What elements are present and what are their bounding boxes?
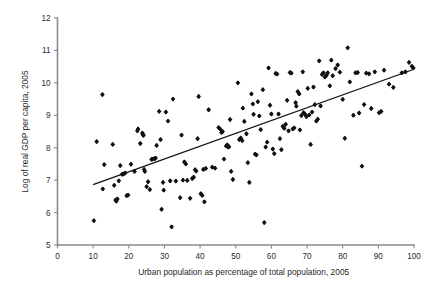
data-point-core — [342, 97, 344, 101]
data-point-core — [252, 102, 254, 106]
data-point-core — [193, 175, 195, 179]
data-point-core — [181, 133, 183, 137]
data-point-core — [208, 108, 210, 112]
y-tick-label: 5 — [46, 241, 51, 250]
data-point-core — [312, 85, 314, 89]
data-point-core — [163, 188, 165, 192]
data-point-core — [352, 113, 354, 117]
data-point-core — [119, 164, 121, 168]
data-point-core — [293, 126, 295, 130]
data-point-core — [260, 128, 262, 132]
data-point-core — [269, 103, 271, 107]
data-point-core — [195, 169, 197, 173]
data-point-core — [286, 98, 288, 102]
scatter-chart: 56789101112 0102030405060708090100 Urban… — [0, 0, 435, 291]
x-tick-label: 90 — [374, 252, 384, 261]
data-point-core — [113, 183, 115, 187]
data-point-core — [388, 82, 390, 86]
data-point-core — [349, 80, 351, 84]
data-point-core — [228, 145, 230, 149]
data-point-core — [139, 142, 141, 146]
data-point-core — [279, 137, 281, 141]
data-point-core — [169, 179, 171, 183]
data-point-core — [144, 169, 146, 173]
x-tick-label: 40 — [196, 252, 206, 261]
data-point-core — [247, 161, 249, 165]
data-point-core — [258, 114, 260, 118]
x-tick-label: 30 — [160, 252, 170, 261]
data-point-core — [308, 113, 310, 117]
data-point-core — [179, 196, 181, 200]
data-point-core — [344, 136, 346, 140]
data-point-core — [116, 197, 118, 201]
y-tick-label: 8 — [46, 144, 51, 153]
data-point-core — [146, 185, 148, 189]
data-point-core — [112, 143, 114, 147]
y-axis-title: Log of real GDP per capita, 2005 — [20, 70, 30, 193]
trend-line — [93, 69, 414, 184]
data-point-core — [93, 219, 95, 223]
data-point-core — [339, 70, 341, 74]
data-point-core — [243, 120, 245, 124]
y-tick-label: 11 — [42, 46, 51, 55]
data-point-core — [361, 164, 363, 168]
data-point-core — [347, 46, 349, 50]
y-tick-label: 6 — [46, 209, 51, 218]
data-point-core — [147, 180, 149, 184]
data-point-core — [198, 95, 200, 99]
data-point-core — [368, 72, 370, 76]
data-point-core — [205, 167, 207, 171]
data-point-core — [182, 178, 184, 182]
data-point-core — [330, 58, 332, 62]
data-point-core — [223, 157, 225, 161]
data-point-core — [161, 207, 163, 211]
data-point-core — [189, 196, 191, 200]
data-point-core — [299, 128, 301, 132]
data-point-core — [101, 93, 103, 97]
data-point-core — [370, 107, 372, 111]
data-point-core — [230, 169, 232, 173]
y-tick-label: 7 — [46, 176, 51, 185]
data-point-core — [130, 162, 132, 166]
data-point-core — [320, 104, 322, 108]
data-point-core — [142, 133, 144, 137]
data-point-core — [263, 221, 265, 225]
data-point-core — [149, 188, 151, 192]
x-tick-label: 0 — [55, 252, 60, 261]
data-point-core — [241, 139, 243, 143]
data-point-core — [248, 181, 250, 185]
data-point-core — [276, 72, 278, 76]
data-point-core — [278, 112, 280, 116]
x-tick-label: 80 — [338, 252, 348, 261]
data-point-core — [332, 74, 334, 78]
data-point-core — [245, 132, 247, 136]
data-point-core — [127, 193, 129, 197]
data-point-core — [270, 112, 272, 116]
data-point-core — [311, 110, 313, 114]
data-point-core — [96, 140, 98, 144]
data-point-core — [337, 63, 339, 67]
x-axis-title: Urban population as percentage of total … — [138, 267, 349, 277]
data-point-core — [357, 71, 359, 75]
data-point-core — [358, 111, 360, 115]
data-point-core — [318, 59, 320, 63]
data-point-core — [408, 61, 410, 65]
data-point-core — [214, 166, 216, 170]
data-point-core — [363, 103, 365, 107]
data-point-core — [162, 181, 164, 185]
data-point-core — [257, 100, 259, 104]
data-point-core — [167, 119, 169, 123]
data-point-core — [175, 179, 177, 183]
x-axis-ticks: 0102030405060708090100 — [55, 245, 421, 261]
data-point-core — [103, 163, 105, 167]
data-point-core — [383, 68, 385, 72]
data-point-core — [232, 178, 234, 182]
x-tick-label: 50 — [231, 252, 241, 261]
data-point-core — [365, 71, 367, 75]
data-point-core — [255, 153, 257, 157]
data-point-core — [250, 92, 252, 96]
data-point-core — [374, 70, 376, 74]
x-tick-label: 60 — [267, 252, 277, 261]
x-tick-label: 20 — [124, 252, 134, 261]
data-point-core — [219, 127, 221, 131]
